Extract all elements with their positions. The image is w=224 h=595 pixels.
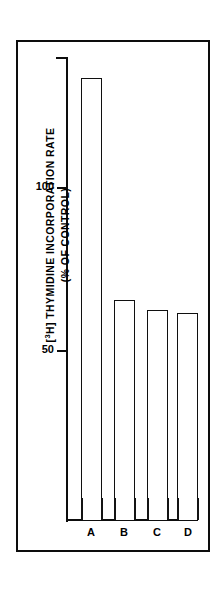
figure-root: 100 50 A B C D [3H] THYMIDINE INCORPORAT… <box>0 0 224 595</box>
figure-frame <box>16 40 210 552</box>
